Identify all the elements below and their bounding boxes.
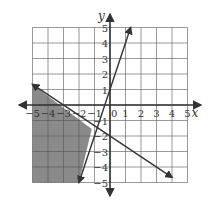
x-tick-label: −2 [72, 108, 87, 119]
x-tick-label: −3 [56, 108, 71, 119]
x-axis-label: x [192, 106, 199, 120]
x-tick-label: 2 [138, 108, 144, 119]
y-tick-label: −1 [93, 116, 108, 127]
y-tick-label: 3 [102, 54, 108, 65]
y-tick-label: 4 [102, 38, 108, 49]
y-axis-label: y [97, 9, 105, 23]
y-tick-label: −4 [93, 162, 108, 173]
y-tick-label: 1 [102, 85, 108, 96]
x-tick-label: 1 [122, 108, 128, 119]
shaded-polygon [33, 84, 92, 182]
y-tick-label: −2 [93, 131, 108, 142]
coordinate-plane: −5−4−3−2−112345054321−1−2−3−4−5xy [0, 0, 210, 202]
y-tick-label: −5 [93, 178, 108, 189]
shaded-region [33, 84, 92, 182]
x-tick-label: 4 [169, 108, 175, 119]
x-tick-label: −5 [25, 108, 40, 119]
y-tick-label: 2 [102, 69, 108, 80]
x-tick-label: 3 [153, 108, 159, 119]
y-tick-label: 5 [102, 23, 108, 34]
y-tick-label: −3 [93, 147, 108, 158]
x-tick-label: −4 [41, 108, 56, 119]
origin-label: 0 [111, 108, 117, 119]
x-tick-label: 5 [184, 108, 190, 119]
